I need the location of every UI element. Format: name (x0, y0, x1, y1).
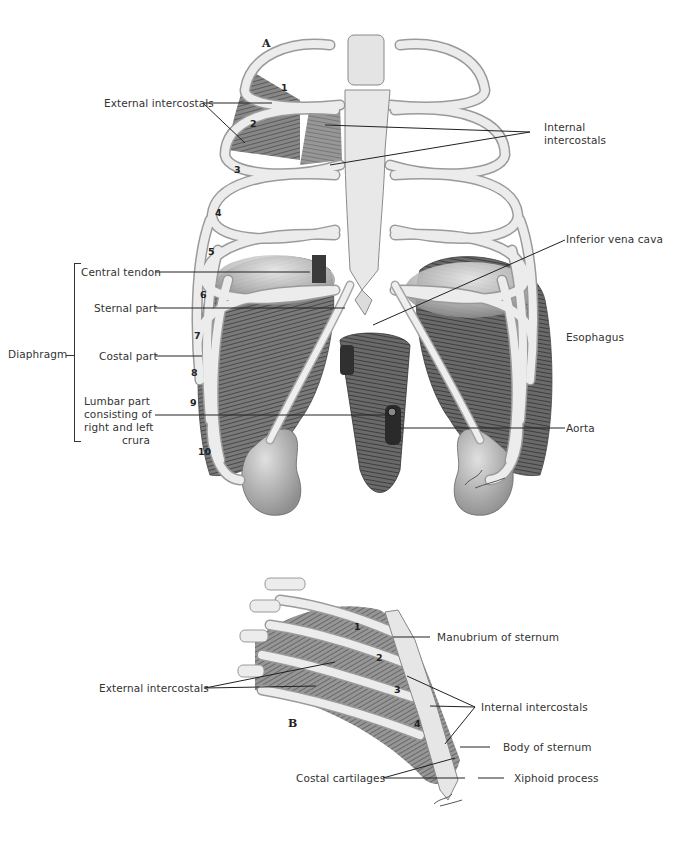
rib-number-6: 6 (200, 289, 207, 300)
label-lumbar-line3: right and left (84, 421, 150, 434)
rib-number-7: 7 (194, 330, 201, 341)
label-lumbar-line4: crura (84, 434, 150, 447)
rib-number-10: 10 (198, 446, 211, 457)
label-lumbar-line2: consisting of (84, 408, 150, 421)
label-external-intercostals-b: External intercostals (99, 682, 209, 695)
rib-number-4: 4 (215, 207, 222, 218)
rib-number-b-4: 4 (414, 718, 421, 729)
label-internal-intercostals-b: Internal intercostals (481, 701, 588, 714)
label-internal-line2: intercostals (544, 134, 606, 147)
label-costal-cartilages: Costal cartilages (296, 772, 385, 785)
label-internal-line1: Internal (544, 121, 606, 134)
rib-number-2: 2 (250, 118, 257, 129)
label-manubrium: Manubrium of sternum (437, 631, 559, 644)
anatomy-figure: A B External intercostals Internal inter… (0, 0, 688, 853)
label-central-tendon: Central tendon (81, 266, 161, 279)
rib-number-b-1: 1 (354, 621, 361, 632)
rib-number-1: 1 (281, 82, 288, 93)
label-sternal-part: Sternal part (94, 302, 157, 315)
label-lumbar-part: Lumbar part consisting of right and left… (84, 395, 150, 447)
panel-label-b: B (288, 717, 297, 730)
label-aorta: Aorta (566, 422, 595, 435)
rib-number-b-3: 3 (394, 684, 401, 695)
rib-number-3: 3 (234, 164, 241, 175)
label-xiphoid-process: Xiphoid process (514, 772, 599, 785)
label-costal-part: Costal part (99, 350, 158, 363)
label-inferior-vena-cava: Inferior vena cava (566, 233, 663, 246)
rib-number-b-2: 2 (376, 652, 383, 663)
rib-number-9: 9 (190, 397, 197, 408)
label-internal-intercostals-a: Internal intercostals (544, 121, 606, 147)
diaphragm-tick (66, 355, 74, 356)
label-lumbar-line1: Lumbar part (84, 395, 150, 408)
label-diaphragm: Diaphragm (8, 348, 67, 361)
label-esophagus: Esophagus (566, 331, 624, 344)
rib-number-5: 5 (208, 246, 215, 257)
label-external-intercostals-a: External intercostals (104, 97, 214, 110)
rib-number-8: 8 (191, 367, 198, 378)
diaphragm-bracket (74, 263, 81, 442)
label-body-of-sternum: Body of sternum (503, 741, 592, 754)
panel-label-a: A (262, 37, 271, 50)
